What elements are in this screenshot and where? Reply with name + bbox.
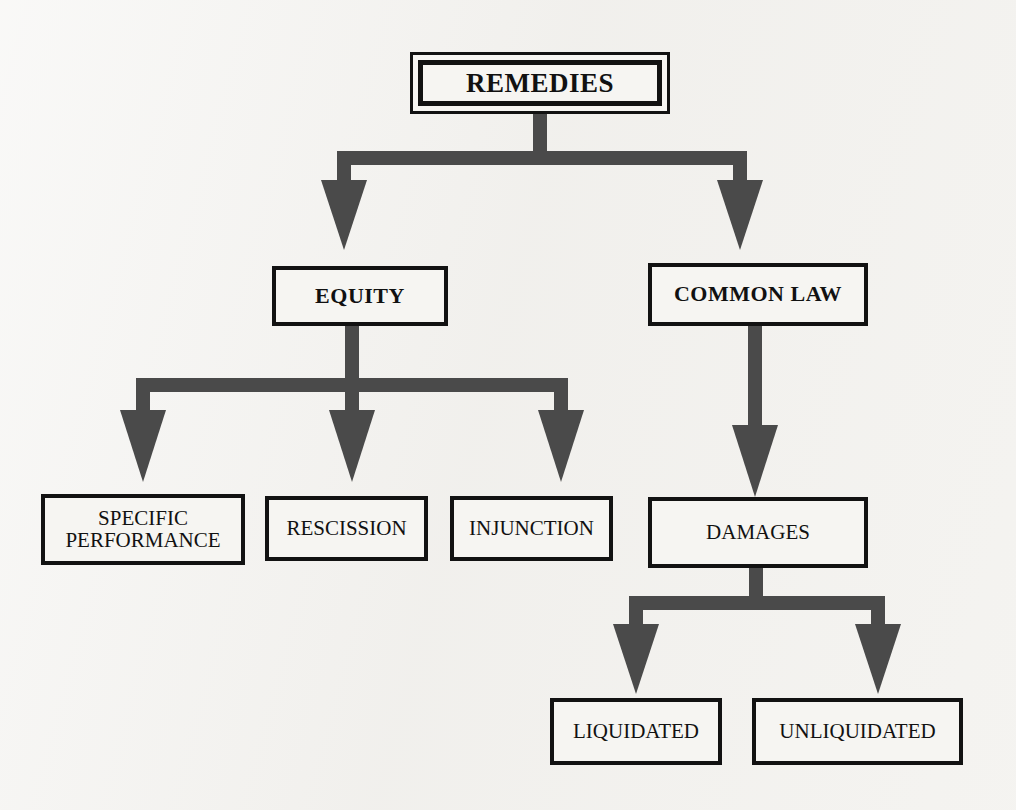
connector-equity-middle-drop [345, 378, 359, 414]
arrowhead-common-law-to-damages [732, 425, 778, 497]
connector-equity-right-drop [554, 378, 568, 414]
node-common-law-label: COMMON LAW [670, 283, 846, 306]
node-damages-label: DAMAGES [702, 522, 814, 544]
connector-damages-crossbar [629, 596, 885, 610]
arrowhead-equity-to-specific-performance [120, 410, 166, 482]
connector-common-law-stem [748, 325, 762, 428]
diagram-canvas: REMEDIES EQUITY COMMON LAW SPECIFIC PERF… [0, 0, 1016, 810]
connector-equity-left-drop [136, 378, 150, 414]
node-liquidated[interactable]: LIQUIDATED [550, 698, 722, 765]
node-specific-performance-label: SPECIFIC PERFORMANCE [61, 508, 224, 552]
node-equity[interactable]: EQUITY [272, 266, 448, 326]
node-liquidated-label: LIQUIDATED [569, 721, 703, 743]
node-equity-label: EQUITY [311, 285, 409, 308]
node-remedies-inner-frame: REMEDIES [418, 60, 662, 106]
node-common-law[interactable]: COMMON LAW [648, 263, 868, 326]
node-unliquidated[interactable]: UNLIQUIDATED [752, 698, 963, 765]
node-damages[interactable]: DAMAGES [648, 497, 868, 568]
arrowhead-equity-to-injunction [538, 410, 584, 482]
node-unliquidated-label: UNLIQUIDATED [775, 721, 939, 743]
connector-remedies-stem [533, 113, 547, 153]
node-remedies[interactable]: REMEDIES [410, 52, 670, 114]
connector-remedies-crossbar [337, 151, 747, 165]
node-injunction-label: INJUNCTION [465, 518, 598, 540]
node-injunction[interactable]: INJUNCTION [450, 496, 613, 561]
arrowhead-equity-to-rescission [329, 410, 375, 482]
arrowhead-damages-to-liquidated [613, 624, 659, 694]
arrowhead-remedies-to-common-law [717, 180, 763, 250]
node-rescission-label: RESCISSION [282, 518, 410, 540]
node-remedies-label: REMEDIES [462, 69, 618, 97]
node-specific-performance[interactable]: SPECIFIC PERFORMANCE [41, 494, 245, 565]
arrowhead-damages-to-unliquidated [855, 624, 901, 694]
arrowhead-remedies-to-equity [321, 180, 367, 250]
node-rescission[interactable]: RESCISSION [265, 496, 428, 561]
